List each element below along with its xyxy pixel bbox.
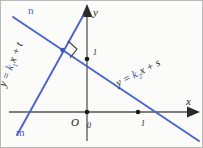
origin-point: [85, 110, 90, 115]
figure-canvas: [1, 1, 203, 148]
x-tick-point-1: [136, 110, 141, 115]
y-axis-label: y: [93, 7, 98, 18]
y-tick-point-1: [85, 57, 90, 62]
line-n: [13, 17, 199, 141]
origin-value-label: 0: [87, 122, 91, 130]
line-m-label: m: [16, 127, 25, 138]
y-tick-label-1: 1: [93, 49, 97, 57]
intersection-point: [60, 48, 65, 53]
line-n-label: n: [28, 5, 34, 16]
x-axis-label: x: [186, 96, 191, 107]
x-axis: [9, 107, 200, 118]
x-tick-label-1: 1: [141, 120, 145, 128]
geometry-figure: n m y x O 0 1 1 y = k1x + t y = k2x + s: [0, 0, 203, 148]
origin-label: O: [71, 117, 79, 128]
